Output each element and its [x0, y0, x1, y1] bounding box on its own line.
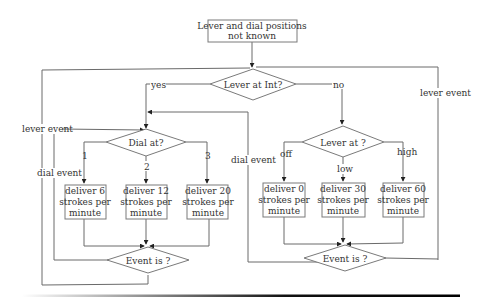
- action-box-line: strokes per: [182, 197, 234, 207]
- edge-label-lever-event-left: lever event: [22, 124, 73, 134]
- decision-lever-at-label: Lever at ?: [320, 138, 366, 148]
- action-box-line: minute: [192, 208, 224, 218]
- edge-label-no: no: [333, 80, 344, 90]
- action-box-line: deliver 12: [123, 186, 169, 196]
- edge-label-dial-3: 3: [205, 151, 211, 161]
- edge-label-off: off: [280, 149, 292, 159]
- action-box-line: strokes per: [258, 195, 310, 205]
- action-box-line: minute: [387, 206, 419, 216]
- action-box-line: deliver 0: [264, 184, 304, 194]
- action-box-line: deliver 30: [320, 184, 366, 194]
- decision-dial-at-label: Dial at?: [128, 138, 163, 148]
- decision-lever-int-label: Lever at Int?: [224, 80, 283, 90]
- decision-event-right: Event is ?: [304, 245, 386, 271]
- action-box-30: deliver 30 strokes per minute: [317, 183, 369, 217]
- start-box: Lever and dial positions not known: [197, 20, 307, 42]
- edge-label-high: high: [397, 147, 417, 157]
- action-box-line: deliver 20: [185, 186, 231, 196]
- bottom-divider-line: [22, 295, 460, 298]
- start-box-line1: Lever and dial positions: [197, 21, 307, 31]
- decision-lever-int: Lever at Int?: [210, 69, 296, 100]
- decision-lever-at: Lever at ?: [302, 126, 384, 157]
- edge-label-dial-event-mid: dial event: [231, 155, 276, 165]
- edge-label-lever-event-right: lever event: [420, 88, 471, 98]
- action-box-0: deliver 0 strokes per minute: [258, 183, 310, 217]
- action-box-line: minute: [327, 206, 359, 216]
- action-box-6: deliver 6 strokes per minute: [59, 185, 111, 219]
- decision-event-left-label: Event is ?: [126, 256, 171, 266]
- action-box-line: deliver 60: [380, 184, 426, 194]
- decision-event-right-label: Event is ?: [323, 254, 368, 264]
- edge-label-dial-event-left: dial event: [37, 168, 82, 178]
- edge-label-dial-2: 2: [144, 162, 150, 172]
- edge-label-yes: yes: [150, 80, 166, 90]
- action-box-line: strokes per: [120, 197, 172, 207]
- edge-label-low: low: [337, 164, 353, 174]
- action-box-line: minute: [69, 208, 101, 218]
- action-box-12: deliver 12 strokes per minute: [120, 185, 172, 219]
- action-box-line: minute: [268, 206, 300, 216]
- start-box-line2: not known: [228, 31, 276, 41]
- action-box-line: strokes per: [59, 197, 111, 207]
- action-box-line: strokes per: [377, 195, 429, 205]
- action-box-line: strokes per: [317, 195, 369, 205]
- action-box-line: minute: [130, 208, 162, 218]
- edge-label-dial-1: 1: [82, 151, 88, 161]
- action-box-60: deliver 60 strokes per minute: [377, 183, 429, 217]
- flowchart: Lever and dial positions not known Lever…: [0, 0, 482, 299]
- action-box-line: deliver 6: [65, 186, 105, 196]
- decision-event-left: Event is ?: [107, 247, 189, 273]
- decision-dial-at: Dial at?: [106, 129, 186, 156]
- action-box-20: deliver 20 strokes per minute: [182, 185, 234, 219]
